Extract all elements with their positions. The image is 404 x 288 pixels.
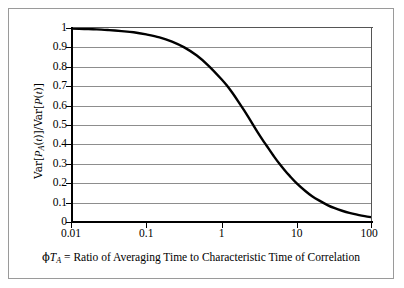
y-tick-label: 0.9 [20,41,67,52]
y-tick-label: 0.1 [20,197,67,208]
y-tick-label: 0.6 [20,100,67,111]
x-axis-tick-labels: 0.01 0.1 1 10 100 [71,227,372,243]
plot-area [71,28,372,222]
x-tick-label: 10 [291,227,303,239]
x-axis-title-text: = Ratio of Averaging Time to Characteris… [61,251,360,263]
plot-border-right [371,27,372,223]
x-axis-title: ϕTA = Ratio of Averaging Time to Charact… [8,250,394,265]
y-axis-line [71,27,73,223]
x-tick-label: 0.1 [139,227,153,239]
y-tick-label: 1 [20,22,67,33]
x-tick-label: 100 [360,227,377,239]
y-tick-label: 0 [20,216,67,227]
y-tick-label: 0.4 [20,138,67,149]
x-tick-label: 1 [219,227,225,239]
y-tick-label: 0.2 [20,177,67,188]
y-tick-label: 0.5 [20,119,67,130]
phi-symbol: ϕ [42,250,50,264]
y-axis-tick-labels: 1 0.9 0.8 0.7 0.6 0.5 0.4 0.3 0.2 0.1 0 [20,28,67,222]
data-curve [71,28,372,222]
y-tick-label: 0.3 [20,158,67,169]
y-tick-label: 0.8 [20,61,67,72]
y-tick-label: 0.7 [20,80,67,91]
series-line [71,29,372,218]
figure-chart-variance-reduction: Var[PA(t)]/Var[P(t)] 1 0.9 0.8 0.7 0.6 0… [0,0,404,288]
plot-border-top [71,27,373,28]
x-tick-label: 0.01 [61,227,81,239]
